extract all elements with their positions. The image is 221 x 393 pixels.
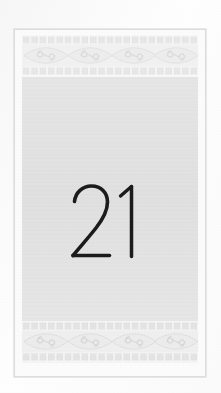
page-sheet: 21 xyxy=(14,29,206,377)
scanned-page-canvas: 21 xyxy=(0,0,221,393)
ornamental-border-top xyxy=(22,35,198,77)
ornamental-border-bottom xyxy=(22,321,198,363)
page-content-field xyxy=(22,77,198,323)
